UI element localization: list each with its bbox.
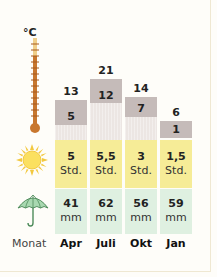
temp-min-okt: 7 xyxy=(125,102,157,115)
temp-min-juli: 12 xyxy=(90,89,122,102)
month-label-apr: Apr xyxy=(55,237,87,250)
rain-value-okt: 56 xyxy=(125,197,157,210)
month-label-juli: Juli xyxy=(90,237,122,250)
temp-min-jan: 1 xyxy=(160,123,192,136)
temp-max-jan: 6 xyxy=(160,106,192,119)
sun-value-apr: 5 xyxy=(55,150,87,163)
sun-value-juli: 5,5 xyxy=(90,150,122,163)
thermometer-icon xyxy=(28,38,42,134)
sun-icon xyxy=(16,144,48,176)
temp-bar-base-okt xyxy=(125,117,157,140)
rain-unit-apr: mm xyxy=(55,211,87,224)
sun-unit-okt: Std. xyxy=(125,164,157,177)
temp-min-apr: 5 xyxy=(55,110,87,123)
sun-value-okt: 3 xyxy=(125,150,157,163)
rain-unit-juli: mm xyxy=(90,211,122,224)
rain-value-jan: 59 xyxy=(160,197,192,210)
month-label-okt: Okt xyxy=(125,237,157,250)
sun-value-jan: 1,5 xyxy=(160,150,192,163)
umbrella-icon xyxy=(17,192,49,228)
sun-unit-jan: Std. xyxy=(160,164,192,177)
temp-bar-base-apr xyxy=(55,125,87,140)
rain-unit-jan: mm xyxy=(160,211,192,224)
frame-border-right xyxy=(210,0,211,272)
frame-border-bottom xyxy=(0,271,211,272)
temp-max-apr: 13 xyxy=(55,85,87,98)
temp-bar-base-juli xyxy=(90,103,122,140)
rain-value-juli: 62 xyxy=(90,197,122,210)
sun-unit-apr: Std. xyxy=(55,164,87,177)
temp-max-juli: 21 xyxy=(90,64,122,77)
month-label-jan: Jan xyxy=(160,237,192,250)
rain-value-apr: 41 xyxy=(55,197,87,210)
month-axis-label: Monat xyxy=(12,237,46,250)
rain-unit-okt: mm xyxy=(125,211,157,224)
sun-unit-juli: Std. xyxy=(90,164,122,177)
temp-max-okt: 14 xyxy=(125,82,157,95)
